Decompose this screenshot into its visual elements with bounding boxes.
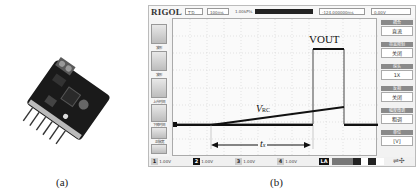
channel-2-num: 2 [193, 158, 200, 165]
menu-header-probe: 探头 [381, 64, 413, 69]
channel-1-num: 1 [151, 158, 158, 165]
trigger-status: T'D [185, 8, 203, 15]
trigger-level[interactable]: 0.00V [371, 8, 411, 15]
channel-4[interactable]: 4 1.00V [277, 158, 297, 165]
vrc-label: VRC [256, 103, 270, 114]
menu-header-fine: 幅度微调 [381, 108, 413, 113]
menu-header-bwlimit: 带宽限制 [381, 42, 413, 47]
tx-sub: x [263, 142, 266, 148]
horizontal-offset[interactable]: -124.000000ms [319, 8, 365, 15]
vout-trace [173, 49, 378, 124]
channel-3-scale: 1.00V [243, 159, 255, 164]
pos-width-button[interactable] [151, 127, 167, 139]
menu-header-invert: 反相 [381, 86, 413, 91]
scope-top-bar: RIGOL T'D 100ms 1.00kPts -124.000000ms 0… [149, 6, 415, 18]
neg-width-button[interactable] [151, 144, 167, 154]
measure-button-2[interactable] [151, 51, 167, 71]
circuit-board-photo [10, 50, 120, 160]
channel-2-scale: 1.00V [201, 159, 213, 164]
menu-coupling[interactable]: 直流 [381, 26, 413, 36]
vrc-sub: RC [262, 107, 270, 113]
circuit-board-icon [10, 50, 120, 160]
memory-info: 1.00kPts [233, 8, 253, 15]
channel-2[interactable]: 2 1.00V [193, 158, 213, 165]
caption-a: (a) [56, 176, 68, 188]
menu-invert[interactable]: 关闭 [381, 92, 413, 102]
usb-icon: ⇌✣ [393, 157, 405, 165]
tx-label: tx [258, 138, 267, 149]
menu-unit[interactable]: [V] [381, 136, 413, 146]
channel-3-num: 3 [235, 158, 242, 165]
rise-time-button[interactable] [151, 78, 167, 98]
menu-header-coupling: 耦合 [381, 20, 413, 25]
channel-menu: 耦合 直流 带宽限制 关闭 探头 1X 反相 关闭 幅度微调 粗调 单位 [V] [379, 18, 415, 156]
digital-channel-blocks [332, 158, 384, 165]
channel-1-scale: 1.00V [159, 159, 171, 164]
measure-panel: 波形 波形 上升时间 下降时间 正脉宽 [149, 18, 169, 156]
channel-3[interactable]: 3 1.00V [235, 158, 255, 165]
menu-fine[interactable]: 粗调 [381, 114, 413, 124]
menu-bwlimit[interactable]: 关闭 [381, 48, 413, 58]
menu-header-unit: 单位 [381, 130, 413, 135]
memory-depth-bar [255, 9, 313, 14]
measure-label-1: 波形 [150, 45, 168, 50]
channel-4-num: 4 [277, 158, 284, 165]
logic-analyzer[interactable]: LA [319, 158, 329, 165]
oscilloscope-screen: RIGOL T'D 100ms 1.00kPts -124.000000ms 0… [148, 5, 416, 167]
waveform-plot [173, 19, 378, 157]
channel-marker [173, 122, 177, 127]
channel-4-scale: 1.00V [285, 159, 297, 164]
timebase-box[interactable]: 100ms [207, 8, 229, 15]
la-label: LA [319, 158, 329, 165]
measure-button-1[interactable] [151, 24, 167, 44]
vrc-ramp [211, 107, 344, 125]
channel-1[interactable]: 1 1.00V [151, 158, 171, 165]
caption-b: (b) [270, 176, 283, 188]
fall-time-button[interactable] [151, 104, 167, 122]
brand-logo: RIGOL [151, 7, 182, 17]
waveform-grid: VOUT VRC tx [172, 18, 377, 156]
menu-probe[interactable]: 1X [381, 70, 413, 80]
measure-label-2: 波形 [150, 72, 168, 77]
channel-status-bar: 1 1.00V 2 1.00V 3 1.00V 4 1.00V LA ⇌✣ [149, 157, 415, 166]
vout-label: VOUT [309, 33, 340, 45]
